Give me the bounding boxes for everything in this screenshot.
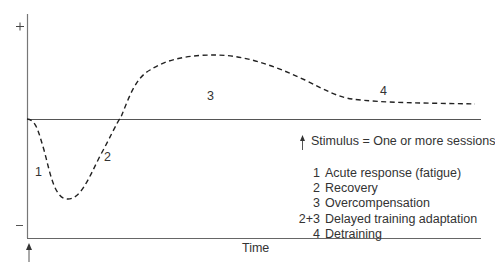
phase-label-1: 1	[35, 165, 42, 179]
time-axis-label: Time	[242, 241, 269, 255]
legend-num: 3	[290, 196, 325, 211]
legend-text: Overcompensation	[325, 196, 430, 211]
legend: 1 Acute response (fatigue) 2 Recovery 3 …	[290, 166, 477, 242]
legend-item: 4 Detraining	[290, 227, 477, 242]
stimulus-arrow-icon	[26, 243, 32, 262]
legend-item: 3 Overcompensation	[290, 196, 477, 211]
phase-label-3: 3	[207, 89, 214, 103]
legend-text: Recovery	[325, 181, 378, 196]
legend-item: 2 Recovery	[290, 181, 477, 196]
legend-item: 1 Acute response (fatigue)	[290, 166, 477, 181]
stimulus-text: Stimulus = One or more sessions	[311, 134, 495, 148]
legend-arrow-icon	[300, 135, 305, 150]
legend-item: 2+3 Delayed training adaptation	[290, 212, 477, 227]
legend-num: 2+3	[290, 212, 325, 227]
legend-text: Delayed training adaptation	[325, 212, 477, 227]
phase-label-4: 4	[380, 84, 387, 98]
legend-num: 2	[290, 181, 325, 196]
legend-stimulus-text: Stimulus = One or more sessions	[311, 134, 495, 148]
legend-text: Detraining	[325, 227, 382, 242]
legend-text: Acute response (fatigue)	[325, 166, 461, 181]
legend-num: 4	[290, 227, 325, 242]
phase-label-2: 2	[104, 150, 111, 164]
legend-num: 1	[290, 166, 325, 181]
